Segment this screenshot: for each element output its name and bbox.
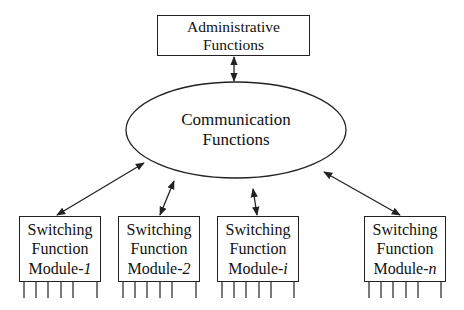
module-i-pins: [222, 282, 294, 298]
module-label-line1: Switching: [127, 220, 192, 239]
module-label-line1: Switching: [373, 220, 438, 239]
module-2-pins: [123, 282, 196, 298]
comm-label-line2: Functions: [202, 130, 269, 150]
module-label-line2: Function: [131, 239, 188, 258]
module-label-line2: Function: [377, 239, 434, 258]
module-prefix: Module-: [127, 260, 182, 277]
arrow-comm-module-n: [324, 172, 400, 215]
module-index: 2: [183, 260, 191, 277]
module-label-line2: Function: [230, 239, 287, 258]
switching-module-2-box: Switching Function Module-2: [118, 216, 200, 282]
arrow-comm-module-i: [253, 189, 257, 215]
module-index: i: [283, 260, 287, 277]
module-index: 1: [84, 260, 92, 277]
admin-label-line2: Functions: [203, 36, 264, 53]
module-1-pins: [24, 282, 97, 298]
module-index: n: [429, 260, 437, 277]
switching-module-n-box: Switching Function Module-n: [364, 216, 446, 282]
module-label-line1: Switching: [28, 220, 93, 239]
communication-functions-label: Communication Functions: [126, 82, 346, 178]
module-label-line1: Switching: [226, 220, 291, 239]
admin-label-line1: Administrative: [187, 18, 280, 35]
module-label-line3: Module-1: [28, 259, 91, 278]
switching-module-1-box: Switching Function Module-1: [19, 216, 101, 282]
module-prefix: Module-: [228, 260, 283, 277]
module-label-line3: Module-i: [228, 259, 288, 278]
switching-module-i-box: Switching Function Module-i: [217, 216, 299, 282]
module-prefix: Module-: [28, 260, 83, 277]
comm-label-line1: Communication: [181, 110, 291, 130]
module-prefix: Module-: [373, 260, 428, 277]
arrow-comm-module-2: [160, 181, 174, 215]
module-label-line2: Function: [32, 239, 89, 258]
module-label-line3: Module-n: [373, 259, 436, 278]
administrative-functions-box: Administrative Functions: [157, 15, 310, 56]
module-n-pins: [369, 282, 441, 298]
module-label-line3: Module-2: [127, 259, 190, 278]
